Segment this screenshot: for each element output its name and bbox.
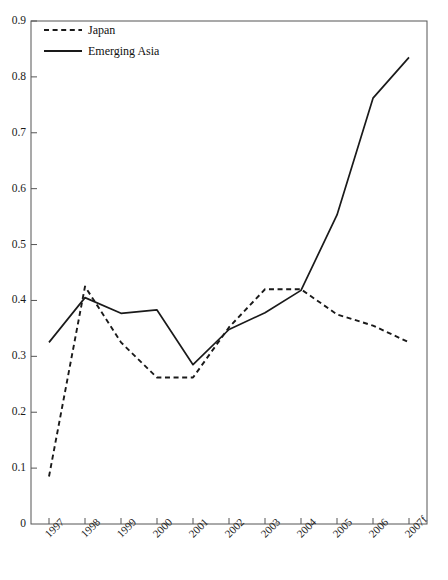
y-axis-tick-label: 0.6 bbox=[0, 183, 26, 195]
chart-canvas bbox=[0, 0, 448, 580]
series-line-japan bbox=[49, 286, 409, 476]
line-chart: 00.10.20.30.40.50.60.70.80.9 19971998199… bbox=[0, 0, 448, 580]
legend-label-emerging-asia: Emerging Asia bbox=[88, 45, 159, 57]
y-axis-tick-label: 0.1 bbox=[0, 462, 26, 474]
series-layer bbox=[49, 57, 409, 476]
legend-label-japan: Japan bbox=[88, 24, 115, 36]
legend-swatches bbox=[44, 30, 82, 51]
series-line-emerging-asia bbox=[49, 57, 409, 364]
y-axis-tick-label: 0.4 bbox=[0, 294, 26, 306]
y-axis-tick-label: 0.7 bbox=[0, 127, 26, 139]
y-axis-tick-label: 0.3 bbox=[0, 350, 26, 362]
y-axis-tick-label: 0.8 bbox=[0, 71, 26, 83]
y-axis-tick-label: 0 bbox=[0, 518, 26, 530]
y-axis-ticks bbox=[31, 21, 37, 468]
y-axis-tick-label: 0.5 bbox=[0, 239, 26, 251]
y-axis-tick-label: 0.9 bbox=[0, 15, 26, 27]
y-axis-tick-label: 0.2 bbox=[0, 406, 26, 418]
plot-frame bbox=[31, 21, 427, 524]
